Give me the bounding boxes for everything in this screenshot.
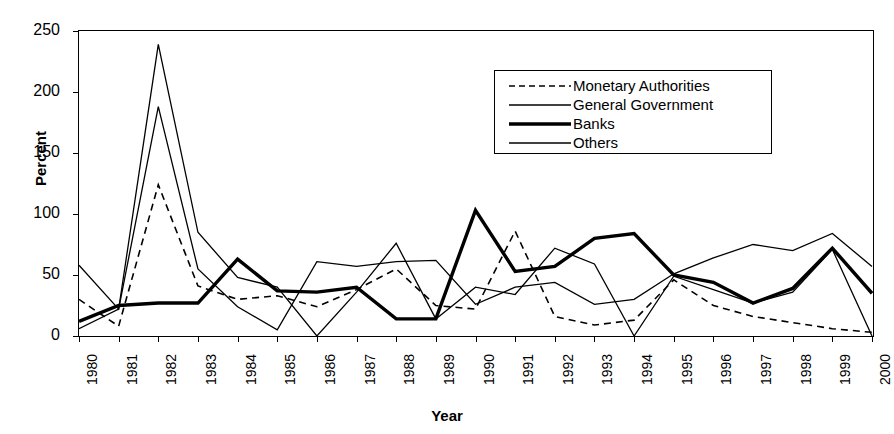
y-tick-label: 100 bbox=[8, 207, 60, 219]
x-tick-label: 1995 bbox=[679, 354, 695, 385]
x-tick-label: 1998 bbox=[798, 354, 814, 385]
line-chart-figure: Percent 050100150200250 1980198119821983… bbox=[0, 0, 894, 434]
thin-line-swatch bbox=[509, 137, 571, 149]
legend-label: Banks bbox=[573, 116, 615, 131]
y-tick-mark bbox=[73, 92, 79, 93]
x-tick-mark bbox=[872, 336, 873, 342]
y-tick-mark bbox=[73, 153, 79, 154]
x-tick-label: 1983 bbox=[203, 354, 219, 385]
legend-item: Monetary Authorities bbox=[495, 76, 771, 95]
x-tick-label: 1984 bbox=[243, 354, 259, 385]
x-tick-label: 1999 bbox=[837, 354, 853, 385]
y-tick-label: 200 bbox=[8, 85, 60, 97]
x-tick-label: 1988 bbox=[401, 354, 417, 385]
y-tick-mark bbox=[73, 31, 79, 32]
y-tick-label: 0 bbox=[8, 329, 60, 341]
y-tick-label: 250 bbox=[8, 24, 60, 36]
x-tick-label: 1987 bbox=[362, 354, 378, 385]
y-tick-mark bbox=[73, 275, 79, 276]
legend-item: Banks bbox=[495, 114, 771, 133]
x-tick-label: 1992 bbox=[560, 354, 576, 385]
x-tick-label: 1993 bbox=[599, 354, 615, 385]
x-axis-title: Year bbox=[0, 407, 894, 424]
legend: Monetary AuthoritiesGeneral GovernmentBa… bbox=[494, 70, 772, 154]
dashed-line-swatch bbox=[509, 80, 571, 92]
x-tick-label: 1994 bbox=[639, 354, 655, 385]
thin-line-swatch bbox=[509, 99, 571, 111]
y-axis-tick-labels: 050100150200250 bbox=[8, 0, 60, 434]
x-axis-tick-labels: 1980198119821983198419851986198719881989… bbox=[78, 341, 872, 401]
x-tick-label: 1989 bbox=[441, 354, 457, 385]
x-tick-label: 1980 bbox=[84, 354, 100, 385]
y-tick-mark bbox=[73, 214, 79, 215]
x-tick-label: 1997 bbox=[758, 354, 774, 385]
x-tick-label: 1990 bbox=[481, 354, 497, 385]
legend-item: General Government bbox=[495, 95, 771, 114]
x-tick-label: 1985 bbox=[282, 354, 298, 385]
thick-line-swatch bbox=[509, 118, 571, 130]
legend-label: Others bbox=[573, 135, 618, 150]
series-line-monetary-authorities bbox=[79, 185, 872, 333]
x-tick-label: 2000 bbox=[877, 354, 893, 385]
x-tick-label: 1996 bbox=[718, 354, 734, 385]
y-tick-label: 150 bbox=[8, 146, 60, 158]
x-tick-label: 1982 bbox=[163, 354, 179, 385]
x-tick-label: 1991 bbox=[520, 354, 536, 385]
legend-label: Monetary Authorities bbox=[573, 78, 710, 93]
x-tick-label: 1981 bbox=[124, 354, 140, 385]
legend-item: Others bbox=[495, 133, 771, 152]
legend-label: General Government bbox=[573, 97, 713, 112]
x-tick-label: 1986 bbox=[322, 354, 338, 385]
y-tick-label: 50 bbox=[8, 268, 60, 280]
